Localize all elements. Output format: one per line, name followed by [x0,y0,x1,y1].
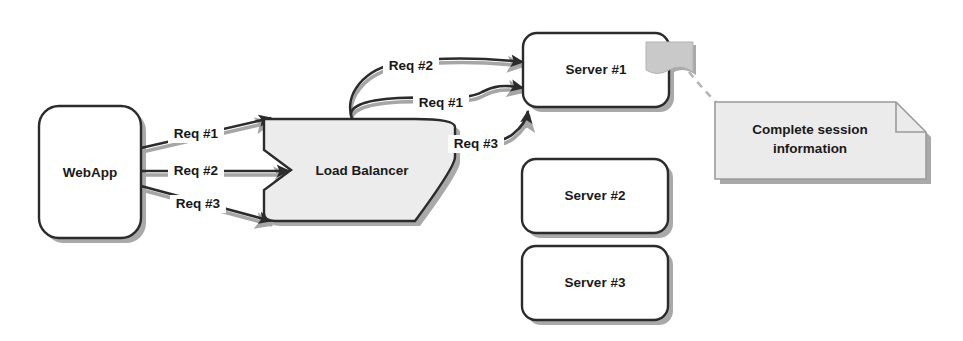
webapp-label: WebApp [63,165,118,180]
session-note-line1: Complete session [752,122,868,137]
server-2-label: Server #2 [565,188,626,203]
server-1-label: Server #1 [566,62,627,77]
node-server-2[interactable]: Server #2 [522,159,668,233]
edge-label-lb-server1-req1: Req #1 [419,95,464,110]
edge-label-webapp-lb-req2: Req #2 [174,163,218,178]
edge-label-webapp-lb-req1: Req #1 [174,126,219,141]
connector-flag-to-note [689,72,716,102]
dashed-connector-line [689,72,716,102]
shadow-layer [44,38,931,325]
flag-ribbon-icon[interactable] [646,42,693,74]
session-flag[interactable] [646,42,693,74]
node-session-note[interactable]: Complete session information [715,102,926,179]
node-webapp[interactable]: WebApp [39,106,141,238]
server-3-label: Server #3 [565,275,626,290]
edge-label-lb-server1-req2: Req #2 [389,58,433,73]
diagram-canvas: WebApp Load Balancer Server #1 Complete … [0,0,963,341]
edge-label-lb-server1-req3: Req #3 [454,136,499,151]
node-server-3[interactable]: Server #3 [522,246,668,320]
session-note-line2: information [773,141,847,156]
load-balancer-label: Load Balancer [315,163,409,178]
node-load-balancer[interactable]: Load Balancer [264,119,455,221]
diagram-svg: WebApp Load Balancer Server #1 Complete … [0,0,963,341]
edge-label-webapp-lb-req3: Req #3 [176,196,221,211]
